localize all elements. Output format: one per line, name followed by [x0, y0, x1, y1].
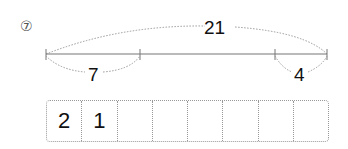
answer-cell[interactable] — [294, 101, 328, 141]
answer-boxes: 2 1 — [46, 100, 329, 142]
answer-cell[interactable] — [259, 101, 294, 141]
answer-cell[interactable] — [153, 101, 188, 141]
answer-cell[interactable] — [118, 101, 153, 141]
right-segment-label: 4 — [294, 65, 305, 84]
answer-cell[interactable]: 2 — [47, 101, 82, 141]
left-segment-label: 7 — [88, 65, 99, 84]
answer-cell[interactable]: 1 — [82, 101, 117, 141]
answer-cell[interactable] — [188, 101, 223, 141]
answer-cell[interactable] — [223, 101, 258, 141]
total-label: 21 — [204, 18, 225, 37]
